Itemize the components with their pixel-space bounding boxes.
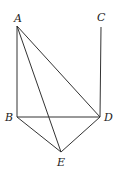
point-label-b: B: [4, 111, 13, 124]
point-label-d: D: [103, 111, 113, 124]
point-label-e: E: [56, 156, 65, 169]
point-label-a: A: [13, 12, 22, 25]
geometry-diagram: ABCDE: [0, 0, 120, 175]
point-label-c: C: [97, 11, 106, 24]
segments: [17, 26, 101, 152]
segment-ad: [17, 26, 100, 117]
segment-ae: [17, 26, 61, 152]
segment-cd: [100, 27, 101, 117]
segment-de: [61, 117, 100, 152]
